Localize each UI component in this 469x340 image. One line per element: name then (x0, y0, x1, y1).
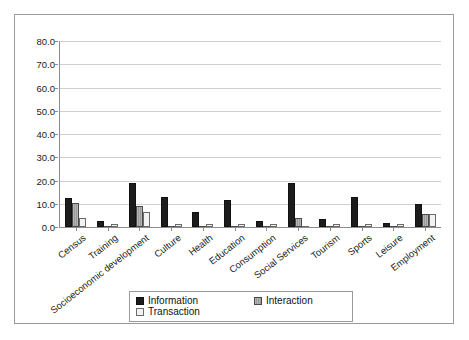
y-axis-tick-mark (55, 181, 58, 182)
bar-information (65, 198, 72, 227)
y-axis-tick-label: 30.0 (37, 152, 56, 163)
bar-information (161, 197, 168, 227)
gray-hatched-square-swatch-icon (254, 297, 262, 305)
bar-group (60, 41, 92, 227)
bar-interaction (295, 218, 302, 227)
x-axis-tick-label-text: Tourism (309, 232, 342, 261)
y-axis-tick-label: 10.0 (37, 198, 56, 209)
y-axis-tick-label: 20.0 (37, 175, 56, 186)
y-axis-tick-label: 70.0 (37, 59, 56, 70)
bar-transaction (270, 224, 277, 227)
bar-transaction (79, 218, 86, 227)
bar-information (256, 221, 263, 227)
y-axis-tick-label: 80.0 (37, 36, 56, 47)
bar-transaction (143, 212, 150, 227)
x-axis-tick-labels: CensusTrainingSocioeconomic developmentC… (59, 228, 441, 288)
x-axis-tick-label-text: Sports (345, 232, 373, 258)
legend-label-interaction: Interaction (266, 295, 313, 306)
bar-group (282, 41, 314, 227)
bar-groups (60, 41, 441, 227)
bar-information (415, 204, 422, 227)
legend-label-transaction: Transaction (148, 306, 200, 317)
y-axis-tick-mark (55, 134, 58, 135)
bar-group (378, 41, 410, 227)
bar-transaction (175, 224, 182, 227)
bar-interaction (422, 214, 429, 227)
y-axis-tick-mark (55, 157, 58, 158)
bar-information (319, 219, 326, 227)
chart-legend: Information Interaction Transaction (129, 291, 353, 322)
bar-information (97, 221, 104, 227)
legend-item-transaction: Transaction (136, 306, 254, 317)
bar-group (124, 41, 156, 227)
bar-group (155, 41, 187, 227)
bar-information (224, 200, 231, 227)
bar-group (187, 41, 219, 227)
bar-transaction (397, 224, 404, 227)
bar-information (383, 223, 390, 227)
bar-group (409, 41, 441, 227)
bar-group (314, 41, 346, 227)
bar-group (251, 41, 283, 227)
y-axis-tick-label: 60.0 (37, 82, 56, 93)
bar-information (288, 183, 295, 227)
white-square-swatch-icon (136, 308, 144, 316)
y-axis-tick-mark (55, 227, 58, 228)
bar-group (219, 41, 251, 227)
bar-group (346, 41, 378, 227)
bar-transaction (206, 224, 213, 227)
x-axis-tick-label-text: Culture (152, 232, 183, 260)
bar-group (92, 41, 124, 227)
bar-information (192, 212, 199, 227)
y-axis-tick-mark (55, 111, 58, 112)
y-axis-tick-mark (55, 88, 58, 89)
y-axis-tick-label: 0.0 (42, 222, 55, 233)
y-axis-tick-mark (55, 41, 58, 42)
y-axis-tick-labels: 0.010.020.030.040.050.060.070.080.0 (15, 41, 55, 228)
bar-information (129, 183, 136, 227)
bar-information (351, 197, 358, 227)
legend-label-information: Information (148, 295, 198, 306)
y-axis-tick-label: 40.0 (37, 129, 56, 140)
bar-transaction (238, 224, 245, 227)
bar-transaction (302, 226, 309, 227)
y-axis-tick-label: 50.0 (37, 105, 56, 116)
chart-frame: 0.010.020.030.040.050.060.070.080.0 Cens… (14, 14, 454, 324)
bar-transaction (333, 224, 340, 227)
legend-item-information: Information (136, 295, 254, 306)
bar-interaction (72, 203, 79, 227)
y-axis-tick-mark (55, 204, 58, 205)
plot-area (59, 41, 441, 228)
bar-transaction (429, 214, 436, 227)
y-axis-tick-mark (55, 64, 58, 65)
legend-row-1: Information Interaction (136, 295, 346, 306)
black-square-swatch-icon (136, 297, 144, 305)
bar-transaction (111, 224, 118, 227)
x-axis-tick-label-text: Census (55, 232, 87, 261)
legend-item-interaction: Interaction (254, 295, 313, 306)
bar-transaction (365, 224, 372, 227)
legend-row-2: Transaction (136, 306, 346, 317)
bar-interaction (136, 206, 143, 227)
